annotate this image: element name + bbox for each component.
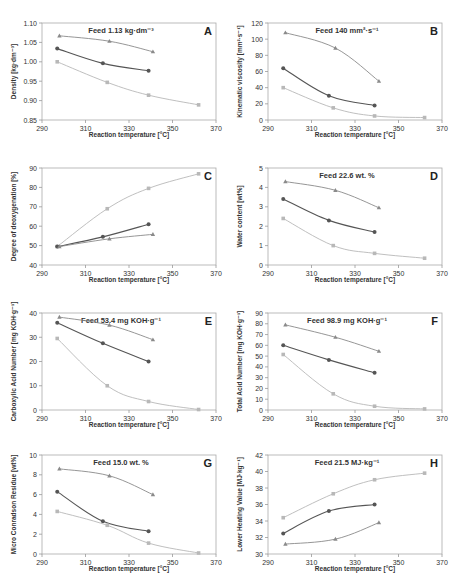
y-axis: 0102030405060708090 <box>255 310 268 414</box>
square-marker <box>147 93 151 97</box>
y-tick-label: 60 <box>255 342 263 349</box>
chart-f: 0102030405060708090Total Acid Number [mg… <box>226 290 452 435</box>
y-tick-label: 2 <box>33 531 37 538</box>
x-tick-label: 370 <box>436 559 448 566</box>
x-axis-title: Reaction temperature [°C] <box>89 276 169 284</box>
y-tick-label: 30 <box>255 374 263 381</box>
series-light-square <box>55 510 200 555</box>
y-axis-title: Water content [wt%] <box>236 185 244 247</box>
square-marker <box>197 172 201 176</box>
panel-title: Feed 1.13 kg·dm⁻³ <box>88 26 154 35</box>
panel-e: 010203040Carboxylic Acid Number [mg KOH·… <box>0 290 226 435</box>
series-dark-circle <box>281 197 376 234</box>
panel-title: Feed 22.6 wt. % <box>319 171 375 180</box>
series-line <box>59 469 153 495</box>
circle-marker <box>327 358 331 362</box>
y-tick-label: 0 <box>259 262 263 269</box>
triangle-marker <box>57 467 61 471</box>
square-marker <box>55 510 59 514</box>
x-axis-title: Reaction temperature [°C] <box>89 421 169 429</box>
series-dark-circle <box>55 47 150 73</box>
x-tick-label: 370 <box>210 559 222 566</box>
x-tick-label: 370 <box>210 415 222 422</box>
x-tick-label: 370 <box>210 125 222 132</box>
square-marker <box>331 244 335 248</box>
circle-marker <box>147 222 151 226</box>
square-marker <box>105 207 109 211</box>
y-tick-label: 60 <box>29 223 37 230</box>
series-mid-triangle <box>283 179 381 209</box>
circle-marker <box>101 61 105 65</box>
y-axis-title: Carboxylic Acid Number [mg KOH·g⁻¹] <box>10 302 18 422</box>
circle-marker <box>327 509 331 513</box>
y-axis: 0.850.900.951.001.051.10 <box>23 20 42 124</box>
square-marker <box>423 116 427 120</box>
y-tick-label: 1.10 <box>23 20 37 27</box>
series-line <box>283 505 374 534</box>
series-mid-triangle <box>283 323 381 353</box>
y-axis-title: Degree of deoxygenation [%] <box>10 172 18 262</box>
series-line <box>285 182 379 208</box>
panel-letter: D <box>430 170 438 182</box>
series-line <box>283 473 424 518</box>
y-tick-label: 50 <box>255 353 263 360</box>
y-tick-label: 10 <box>255 396 263 403</box>
square-marker <box>147 400 151 404</box>
y-tick-label: 20 <box>255 385 263 392</box>
square-marker <box>197 551 201 555</box>
square-marker <box>197 103 201 107</box>
circle-marker <box>281 531 285 535</box>
series-line <box>283 354 424 408</box>
y-tick-label: 42 <box>255 452 263 459</box>
y-tick-label: 3 <box>259 203 263 210</box>
y-tick-label: 50 <box>29 242 37 249</box>
circle-marker <box>373 103 377 107</box>
triangle-marker <box>283 30 287 34</box>
panel-letter: C <box>204 170 212 182</box>
y-tick-label: 1 <box>259 242 263 249</box>
circle-marker <box>147 360 151 364</box>
y-tick-label: 120 <box>251 20 263 27</box>
triangle-marker <box>151 232 155 236</box>
y-tick-label: 80 <box>255 320 263 327</box>
y-tick-label: 0.90 <box>23 97 37 104</box>
chart-b: 020406080100120Kinematic viscosity [mm²·… <box>226 0 452 145</box>
triangle-marker <box>57 34 61 38</box>
series-line <box>283 199 374 232</box>
panel-title: Feed 15.0 wt. % <box>93 458 149 467</box>
y-tick-label: 20 <box>255 100 263 107</box>
y-tick-label: 34 <box>255 518 263 525</box>
y-axis: 010203040 <box>29 310 42 414</box>
square-marker <box>281 86 285 90</box>
circle-marker <box>55 490 59 494</box>
y-axis-title: Micro Conradson Residue [wt%] <box>10 455 18 555</box>
y-tick-label: 5 <box>259 165 263 172</box>
series-light-square <box>55 60 200 107</box>
series-line <box>57 338 198 409</box>
y-axis-title: Total Acid Number [mg KOH·g⁻¹] <box>236 311 244 413</box>
circle-marker <box>55 321 59 325</box>
series-light-square <box>55 337 200 412</box>
y-tick-label: 6 <box>33 491 37 498</box>
square-marker <box>55 337 59 341</box>
y-tick-label: 0 <box>33 407 37 414</box>
y-tick-label: 100 <box>251 36 263 43</box>
square-marker <box>281 353 285 357</box>
x-tick-label: 370 <box>210 270 222 277</box>
y-tick-label: 40 <box>29 310 37 317</box>
square-marker <box>105 81 109 85</box>
x-tick-label: 370 <box>436 125 448 132</box>
series-light-square <box>281 471 426 519</box>
y-tick-label: 60 <box>255 68 263 75</box>
panel-c: 405060708090Degree of deoxygenation [%]2… <box>0 145 226 290</box>
y-tick-label: 0.95 <box>23 78 37 85</box>
y-tick-label: 70 <box>255 331 263 338</box>
square-marker <box>331 106 335 110</box>
y-axis-title: Kinematic viscosity [mm²·s⁻¹] <box>236 25 244 118</box>
series-line <box>285 523 379 544</box>
square-marker <box>281 516 285 520</box>
y-tick-label: 90 <box>29 165 37 172</box>
circle-marker <box>147 529 151 533</box>
panel-b: 020406080100120Kinematic viscosity [mm²·… <box>226 0 452 145</box>
series-light-square <box>281 353 426 411</box>
